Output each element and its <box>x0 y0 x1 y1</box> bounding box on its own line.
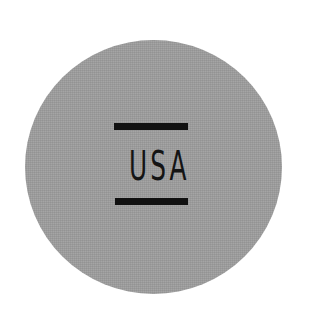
badge-label: USA <box>126 145 178 187</box>
canvas: USA <box>0 0 316 327</box>
top-rule <box>114 123 188 130</box>
bottom-rule <box>115 198 188 205</box>
